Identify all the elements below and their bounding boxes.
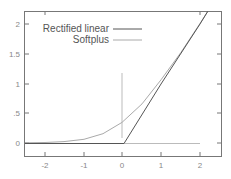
y-tick-label: 0: [16, 139, 21, 148]
y-axis-labels: 0 .5 1 1.5 2: [9, 20, 21, 148]
x-tick-label: -2: [41, 161, 49, 170]
x-tick-label: 0: [120, 161, 125, 170]
y-tick-label: 2: [16, 20, 21, 29]
x-tick-label: -1: [80, 161, 88, 170]
y-axis-ticks: [25, 24, 221, 143]
x-axis-labels: -2 -1 0 1 2: [41, 161, 202, 170]
x-tick-label: 2: [198, 161, 203, 170]
y-tick-label: .5: [13, 109, 20, 118]
legend: Rectified linear Softplus: [43, 23, 142, 45]
chart: -2 -1 0 1 2 0 .5 1 1.5 2 Rectified linea…: [0, 0, 231, 179]
legend-label-rectified-linear: Rectified linear: [43, 23, 110, 34]
y-tick-label: 1: [16, 80, 21, 89]
y-tick-label: 1.5: [9, 50, 21, 59]
x-tick-label: 1: [159, 161, 164, 170]
legend-label-softplus: Softplus: [73, 34, 109, 45]
